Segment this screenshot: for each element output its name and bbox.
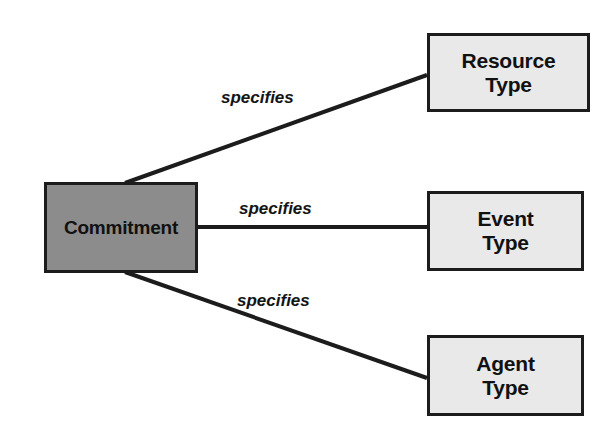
- node-agent-type-label: Agent Type: [476, 352, 535, 399]
- node-commitment-label: Commitment: [64, 217, 178, 239]
- edge-commitment-agent-type: [125, 272, 427, 378]
- edge-label-commitment-resource-type: specifies: [221, 88, 294, 108]
- node-event-type-label: Event Type: [477, 207, 533, 254]
- diagram-canvas: Commitment Resource Type Event Type Agen…: [0, 0, 615, 444]
- edge-label-commitment-agent-type: specifies: [237, 291, 310, 311]
- node-agent-type[interactable]: Agent Type: [427, 335, 584, 416]
- node-resource-type-label: Resource Type: [461, 49, 555, 96]
- node-resource-type[interactable]: Resource Type: [427, 33, 590, 112]
- edge-label-commitment-event-type: specifies: [239, 199, 312, 219]
- node-commitment[interactable]: Commitment: [44, 182, 198, 273]
- node-event-type[interactable]: Event Type: [427, 191, 584, 271]
